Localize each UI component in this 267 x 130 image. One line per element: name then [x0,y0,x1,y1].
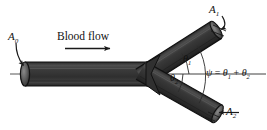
label-area-branch2: A2 [226,106,236,120]
label-theta1: θ1 [183,54,191,66]
inlet-vessel-a0 [20,62,150,86]
equation-psi: ψ = θ1 + θ2 [206,68,250,80]
label-blood-flow: Blood flow [57,31,109,43]
label-area-inlet: A0 [8,31,18,45]
label-area-branch1: A1 [209,4,219,18]
bifurcation-figure: A0 A1 A2 θ1 θ2 ψ = θ1 + θ2 Blood flow [0,0,267,130]
a0-pointer-arrow [16,43,24,66]
label-theta2: θ2 [170,73,178,85]
inlet-cap-ellipse [20,62,29,86]
